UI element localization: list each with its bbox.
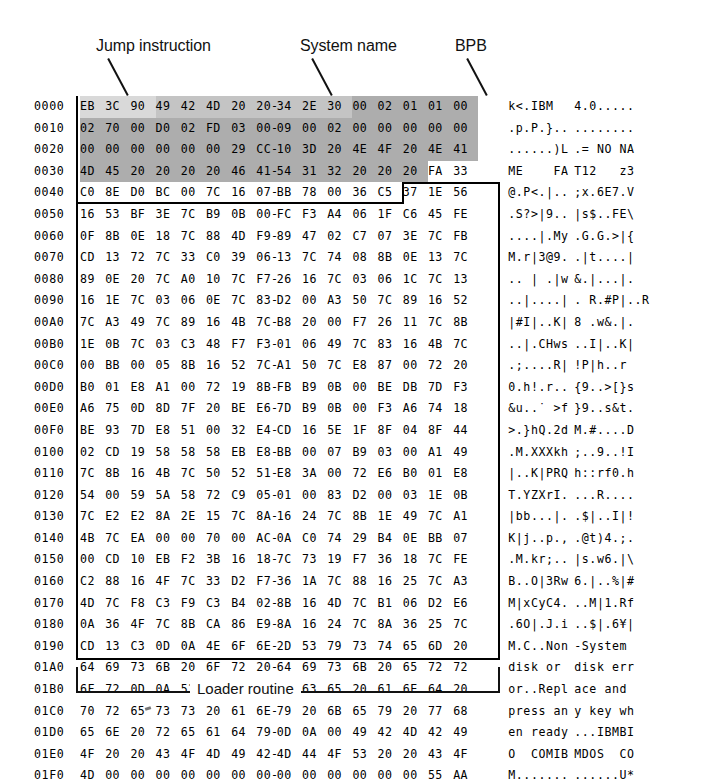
- hex-byte: 6E-: [256, 636, 277, 658]
- hex-byte: 49: [403, 506, 428, 528]
- ascii-left: |..K|PRQ: [508, 463, 574, 485]
- ascii-group: ......)L.= NO NA: [508, 139, 634, 161]
- ascii-right: ..M|1.Rf: [574, 593, 634, 615]
- ascii-right: ..$|.6¥|: [574, 614, 634, 636]
- hex-byte: BB: [277, 442, 302, 464]
- hex-byte: 89: [277, 226, 302, 248]
- hex-byte: 73: [327, 657, 352, 679]
- hex-byte: 16: [80, 290, 105, 312]
- hex-byte: 00: [156, 765, 181, 783]
- hex-byte: 20: [403, 744, 428, 766]
- ascii-group: disk ordisk err: [508, 657, 634, 679]
- hex-dump-row: 01F04D 00 00 00 00 00 00 00-00 00 00 00 …: [34, 765, 650, 783]
- hex-byte: 7C: [352, 614, 377, 636]
- hex-byte: 61: [378, 679, 403, 701]
- ascii-right: T12 z3: [574, 161, 634, 183]
- hex-byte: 51: [181, 420, 206, 442]
- hex-byte: 4B: [231, 312, 256, 334]
- hex-byte: E8: [352, 355, 377, 377]
- hex-byte: 42: [181, 96, 206, 118]
- hex-byte: 0B: [231, 204, 256, 226]
- hex-byte: BB: [428, 528, 453, 550]
- hex-byte: 52: [453, 290, 478, 312]
- hex-byte: 00: [378, 118, 403, 140]
- hex-byte: FE: [453, 549, 478, 571]
- hex-byte: 45: [105, 161, 130, 183]
- ascii-left: >.}hQ.2d: [508, 420, 574, 442]
- hex-byte: 61: [206, 722, 231, 744]
- hex-byte: 16: [80, 204, 105, 226]
- hex-byte: 16: [403, 334, 428, 356]
- hex-byte: 90: [130, 96, 155, 118]
- hex-byte: 33: [453, 161, 478, 183]
- ascii-group: .;....R|!P|h..r: [508, 355, 627, 377]
- hex-byte: E6-: [256, 398, 277, 420]
- hex-byte: 78: [302, 182, 327, 204]
- hex-byte: 7C: [327, 355, 352, 377]
- hex-byte: 00: [327, 722, 352, 744]
- hex-byte: 32: [327, 161, 352, 183]
- ascii-right: &.|...|.: [574, 269, 634, 291]
- hex-byte: 20: [453, 679, 478, 701]
- hex-byte: 36: [105, 614, 130, 636]
- hex-dump-row: 01E04F 20 20 43 4F 4D 49 42-4D 44 4F 53 …: [34, 744, 650, 766]
- hex-byte: 18-: [256, 549, 277, 571]
- hex-row-address: 0140: [34, 528, 80, 550]
- hex-byte: 0E: [403, 528, 428, 550]
- hex-byte: 63: [302, 679, 327, 701]
- hex-byte: 00: [130, 355, 155, 377]
- hex-byte: 0D: [130, 398, 155, 420]
- hex-byte-group: 00 00 00 00 00 00 29 CC-10 3D 20 4E 4F 2…: [80, 139, 478, 161]
- hex-byte: 65: [181, 722, 206, 744]
- hex-byte: 6B: [352, 657, 377, 679]
- hex-byte: 00-: [256, 118, 277, 140]
- hex-byte: 79: [327, 636, 352, 658]
- hex-byte-group: 4F 20 20 43 4F 4D 49 42-4D 44 4F 53 20 2…: [80, 744, 478, 766]
- hex-byte: 56: [453, 182, 478, 204]
- ascii-group: .6O|.J.i..$|.6¥|: [508, 614, 634, 636]
- hex-byte: 32: [231, 420, 256, 442]
- hex-byte: 20: [403, 161, 428, 183]
- hex-byte: 19: [231, 377, 256, 399]
- hex-byte: EB: [231, 442, 256, 464]
- hex-byte: 1E: [428, 182, 453, 204]
- hex-byte: 58: [156, 442, 181, 464]
- ascii-left: en ready: [508, 722, 574, 744]
- hex-byte: 3B: [206, 549, 231, 571]
- hex-byte: 7C: [156, 269, 181, 291]
- hex-byte: 0B: [327, 377, 352, 399]
- hex-byte: C0: [80, 182, 105, 204]
- ascii-left: B..O|3Rw: [508, 571, 574, 593]
- hex-byte: 20: [130, 722, 155, 744]
- hex-byte: 73: [352, 636, 377, 658]
- hex-dump-row: 009016 1E 7C 03 06 0E 7C 83-D2 00 A3 50 …: [34, 290, 650, 312]
- hex-byte: 00: [181, 182, 206, 204]
- hex-byte: 07: [378, 226, 403, 248]
- hex-byte: 0E: [130, 226, 155, 248]
- hex-byte: 41: [453, 139, 478, 161]
- hex-byte-group: 65 6E 20 72 65 61 64 79-0D 0A 00 49 42 4…: [80, 722, 478, 744]
- hex-byte: 7C: [231, 506, 256, 528]
- hex-byte: E8: [277, 463, 302, 485]
- hex-byte: 00: [352, 765, 377, 783]
- ascii-group: 0.h!.r..{9..>[}s: [508, 377, 634, 399]
- hex-byte: 73: [156, 701, 181, 723]
- hex-byte: 00: [105, 485, 130, 507]
- ascii-left: .M.kr;..: [508, 549, 574, 571]
- hex-dump-row: 01A064 69 73 6B 20 6F 72 20-64 69 73 6B …: [34, 657, 650, 679]
- hex-byte: 00: [105, 139, 130, 161]
- hex-byte: 7C: [453, 614, 478, 636]
- hex-byte: 10: [277, 139, 302, 161]
- hex-byte: C3: [206, 593, 231, 615]
- hex-byte: 0B: [453, 485, 478, 507]
- hex-byte: 46: [231, 161, 256, 183]
- hex-byte: 07-: [256, 182, 277, 204]
- hex-byte: 8A: [378, 614, 403, 636]
- hex-byte: 18: [453, 398, 478, 420]
- ascii-group: M.............U*: [508, 765, 634, 783]
- hex-byte: 68: [453, 701, 478, 723]
- hex-byte: E8: [453, 463, 478, 485]
- hex-byte: 16: [302, 614, 327, 636]
- hex-byte: F2: [181, 549, 206, 571]
- hex-byte: 30: [327, 96, 352, 118]
